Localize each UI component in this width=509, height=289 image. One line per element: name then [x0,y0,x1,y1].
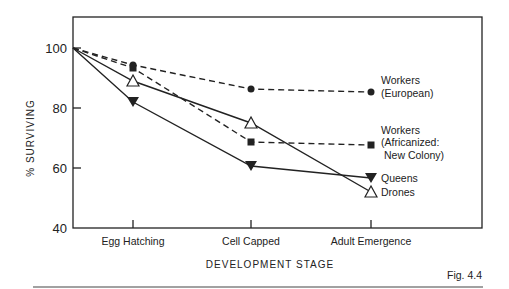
label-workers-africanized-3: New Colony) [384,149,444,161]
x-axis-title: DEVELOPMENT STAGE [206,259,334,270]
x-tick-adult-emergence: Adult Emergence [331,235,412,247]
y-tick-60: 60 [53,161,67,176]
y-ticks [73,48,371,228]
markers-drones [127,75,377,197]
y-tick-100: 100 [45,41,67,56]
series-lines [73,48,371,192]
x-tick-cell-capped: Cell Capped [222,235,280,247]
label-workers-european-1: Workers [381,74,420,86]
series-labels: Workers (European) Workers (Africanized:… [381,74,444,198]
markers-workers-africanized [130,65,375,149]
markers-workers-european [130,62,375,96]
figure-caption: Fig. 4.4 [447,269,482,281]
plot-frame [73,17,482,228]
label-drones: Drones [381,186,415,198]
label-workers-european-2: (European) [381,87,434,99]
survival-chart: 100 80 60 40 Egg Hatching Cell Capped Ad… [0,0,509,289]
line-drones [73,48,371,192]
y-tick-80: 80 [53,101,67,116]
y-tick-40: 40 [53,221,67,236]
y-axis-title: % SURVIVING [25,99,36,177]
label-queens: Queens [381,172,418,184]
label-workers-africanized-1: Workers [381,124,420,136]
line-workers-africanized [73,48,371,145]
line-workers-european [73,48,371,92]
label-workers-africanized-2: (Africanized: [381,136,439,148]
x-tick-egg-hatching: Egg Hatching [101,235,164,247]
